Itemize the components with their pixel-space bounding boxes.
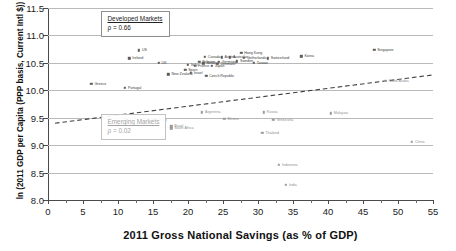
data-point-label: Mexico [227, 117, 238, 121]
data-point-label: US [142, 48, 147, 52]
data-point-label: Venezuela [276, 118, 293, 122]
data-point [128, 57, 130, 59]
data-point [198, 61, 200, 63]
data-point [184, 69, 186, 71]
data-point [204, 56, 206, 58]
data-point-label: Thailand [265, 131, 279, 135]
data-point-label: Korea [304, 54, 314, 58]
annotation-developed-rho: ρ = 0.66 [108, 24, 163, 33]
data-point-label: Switzerland [271, 56, 290, 60]
data-point-label: Russia [267, 110, 278, 114]
x-tick [153, 200, 154, 204]
data-point [272, 119, 274, 121]
annotation-emerging-title: Emerging Markets [108, 118, 160, 127]
data-point-label: Hong Kong [244, 51, 262, 55]
x-tick-label: 10 [113, 206, 124, 217]
x-axis-ticks: 0510152025303540455055 [48, 200, 433, 220]
x-tick [188, 200, 189, 204]
y-tick-label: 8.5 [31, 167, 44, 178]
x-tick-minor [346, 200, 347, 203]
data-point [167, 73, 169, 75]
data-point-label: Czech Republic [209, 74, 234, 78]
plot-area: 8.08.59.09.510.010.511.011.5 05101520253… [48, 8, 433, 200]
data-point [124, 86, 126, 88]
x-tick-minor [311, 200, 312, 203]
x-tick-minor [136, 200, 137, 203]
data-point [216, 63, 218, 65]
data-point-label: Portugal [128, 85, 141, 89]
x-axis-title: 2011 Gross National Savings (as % of GDP… [48, 229, 433, 241]
data-point [267, 57, 269, 59]
x-tick-minor [66, 200, 67, 203]
x-tick-label: 5 [80, 206, 85, 217]
data-point-label: South Africa [174, 126, 193, 130]
data-point-label: Saudi Arabia [388, 79, 408, 83]
y-tick-label: 11.5 [26, 3, 44, 14]
annotation-developed-title: Developed Markets [108, 15, 163, 24]
data-point [202, 62, 204, 64]
data-point [262, 111, 264, 113]
x-tick-minor [276, 200, 277, 203]
data-point [138, 49, 140, 51]
y-axis-title-wrapper: ln (2011 GDP per Capita (PPP basis, Curr… [0, 0, 1, 1]
data-point-label: Indonesia [282, 163, 298, 167]
annotation-emerging-markets: Emerging Markets ρ = 0.02 [101, 114, 167, 140]
x-tick [363, 200, 364, 204]
data-point [90, 82, 92, 84]
annotation-emerging-rho: ρ = 0.02 [108, 127, 160, 136]
data-point [330, 112, 332, 114]
scatter-chart: ln (2011 GDP per Capita (PPP basis, Curr… [0, 0, 456, 251]
x-tick-minor [381, 200, 382, 203]
data-point-label: China [415, 140, 424, 144]
data-point [373, 48, 375, 50]
data-point [261, 132, 263, 134]
x-tick-minor [241, 200, 242, 203]
data-point [253, 62, 255, 64]
data-point [220, 56, 222, 58]
data-point [229, 56, 231, 58]
data-point [218, 61, 220, 63]
x-tick-label: 0 [45, 206, 50, 217]
x-tick-minor [101, 200, 102, 203]
x-tick-label: 50 [393, 206, 404, 217]
data-point-label: Malaysia [334, 111, 348, 115]
x-tick [48, 200, 49, 204]
data-point [384, 80, 386, 82]
data-point-label: Netherlands [247, 56, 266, 60]
y-tick-label: 10.0 [26, 85, 45, 96]
x-tick [398, 200, 399, 204]
data-point-label: Israel [194, 71, 203, 75]
x-tick [293, 200, 294, 204]
x-tick-label: 20 [183, 206, 194, 217]
data-point [278, 164, 280, 166]
x-tick-label: 25 [218, 206, 229, 217]
y-tick-label: 8.0 [31, 195, 44, 206]
y-tick-label: 11.0 [26, 30, 44, 41]
x-tick-label: 45 [358, 206, 369, 217]
data-point-label: UK [162, 61, 167, 65]
data-point [236, 60, 238, 62]
x-tick-minor [416, 200, 417, 203]
data-point [411, 141, 413, 143]
data-point [243, 57, 245, 59]
data-point [187, 64, 189, 66]
x-tick [258, 200, 259, 204]
x-tick [223, 200, 224, 204]
data-point [211, 64, 213, 66]
data-point [190, 72, 192, 74]
x-tick [328, 200, 329, 204]
data-point [205, 75, 207, 77]
y-axis-title: ln (2011 GDP per Capita (PPP basis, Curr… [16, 1, 25, 201]
data-point-label: Singapore [377, 48, 393, 52]
x-tick-minor [171, 200, 172, 203]
x-tick-label: 35 [288, 206, 299, 217]
x-tick-label: 15 [148, 206, 159, 217]
annotation-developed-markets: Developed Markets ρ = 0.66 [101, 11, 170, 37]
x-tick [433, 200, 434, 204]
data-point-label: Canada [208, 55, 221, 59]
data-point [223, 118, 225, 120]
x-tick [83, 200, 84, 204]
data-point-label: India [289, 183, 297, 187]
data-point [201, 111, 203, 113]
x-tick [118, 200, 119, 204]
